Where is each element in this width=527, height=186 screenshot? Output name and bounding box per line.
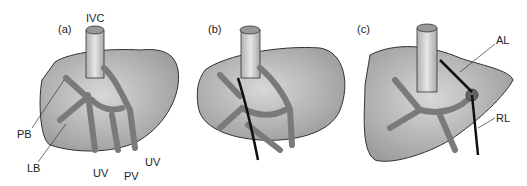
ivc-a — [86, 30, 104, 78]
label-uv-left: UV — [93, 167, 109, 179]
label-pv: PV — [124, 170, 139, 182]
panel-label-a: (a) — [58, 23, 71, 35]
panel-label-b: (b) — [208, 23, 221, 35]
panel-b: (b) — [197, 23, 345, 160]
label-pb: PB — [17, 128, 32, 140]
label-al: AL — [496, 34, 509, 46]
label-ivc: IVC — [86, 12, 104, 24]
ivc-b — [241, 30, 260, 78]
ivc-opening-b — [240, 26, 260, 34]
panel-label-c: (c) — [357, 23, 370, 35]
label-uv-right: UV — [145, 156, 161, 168]
ivc-opening-c — [417, 24, 437, 32]
liver-anatomy-diagram: (a) IVC PB LB UV PV UV (b) (c) AL RL — [0, 0, 527, 186]
ivc-opening-a — [86, 26, 104, 34]
ivc-c — [417, 28, 437, 92]
panel-a: (a) IVC PB LB UV PV UV — [17, 12, 179, 182]
liver-c — [364, 47, 513, 162]
label-rl: RL — [496, 112, 510, 124]
label-lb: LB — [27, 162, 40, 174]
liver-a — [40, 50, 179, 152]
panel-c: (c) AL RL — [357, 23, 513, 161]
